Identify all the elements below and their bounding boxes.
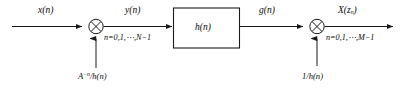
gain-label-second: 1/h(n): [302, 72, 323, 81]
intermediate-signal-label-g: g(n): [259, 6, 275, 16]
index-range-first: n=0,1,⋯,N−1: [104, 34, 151, 42]
gain-label-first: A−n/h(n): [78, 72, 107, 81]
second-multiplier-symbol: [310, 19, 324, 33]
first-multiplier-symbol: [89, 19, 103, 33]
index-range-second: n=0,1,⋯,M−1: [326, 34, 374, 42]
signal-flow-diagram: x(n) y(n) n=0,1,⋯,N−1 A−n/h(n) h(n) g(n)…: [0, 0, 402, 89]
intermediate-signal-label-y: y(n): [125, 6, 140, 16]
input-signal-label: x(n): [38, 6, 53, 16]
filter-block-label: h(n): [195, 23, 211, 33]
output-label-tail: ): [354, 5, 357, 15]
gain-suffix: /h(n): [90, 71, 107, 81]
output-label-head: X(z: [338, 5, 351, 15]
gain-exponent: −n: [83, 71, 90, 77]
output-signal-label: X(zn): [338, 6, 357, 16]
